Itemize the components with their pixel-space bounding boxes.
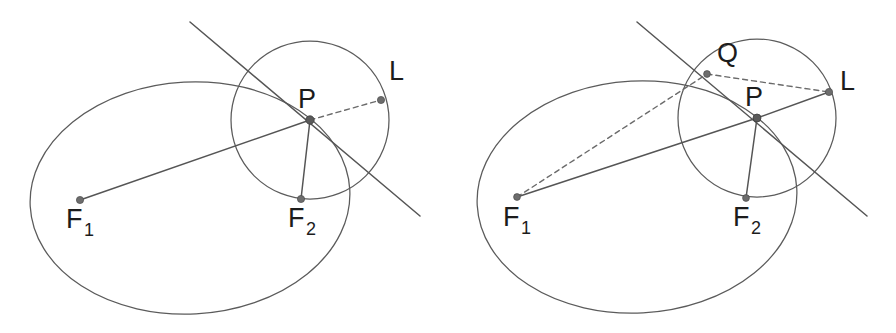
- segment-f1-to-q-right: [517, 74, 707, 197]
- label-f1-sub-right: 1: [521, 218, 531, 238]
- point-f2-right: [743, 195, 750, 202]
- label-l-right: L: [840, 66, 855, 96]
- segment-p-to-l-right: [757, 92, 829, 118]
- geometry-figure: F 1 F 2 P L F 1 F 2 P Q L: [0, 0, 896, 333]
- segment-p-to-f2-right: [746, 118, 757, 198]
- segment-f1-to-p-right: [517, 118, 757, 197]
- point-q-right: [704, 71, 711, 78]
- label-p-right: P: [745, 82, 763, 112]
- label-f2-sub-right: 2: [751, 218, 761, 238]
- point-f1-right: [514, 194, 521, 201]
- label-q-right: Q: [717, 38, 738, 68]
- point-p-right: [753, 114, 761, 122]
- point-l-right: [825, 88, 832, 95]
- segment-q-to-l-right: [707, 74, 829, 92]
- right-diagram: F 1 F 2 P Q L: [0, 0, 896, 333]
- label-f1-right: F: [503, 202, 520, 232]
- label-f2-right: F: [733, 202, 750, 232]
